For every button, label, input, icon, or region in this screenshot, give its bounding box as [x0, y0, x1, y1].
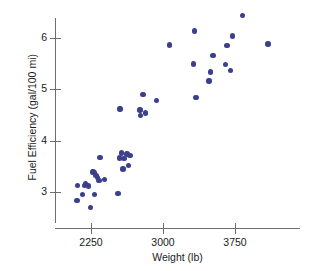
x-axis-tick-label: 2250 — [69, 237, 113, 248]
scatter-plot-figure: 3456225030003750 Weight (lb) Fuel Effici… — [0, 0, 315, 271]
data-point — [193, 95, 198, 100]
data-point — [75, 183, 80, 188]
data-point — [224, 43, 229, 48]
data-point — [191, 61, 196, 66]
data-point — [88, 205, 93, 210]
data-point — [115, 191, 120, 196]
data-point — [117, 106, 122, 111]
x-axis-tick — [235, 223, 236, 234]
data-point — [97, 155, 102, 160]
data-point — [240, 13, 245, 18]
data-point — [127, 153, 132, 158]
data-point — [120, 166, 125, 171]
plot-area: 3456225030003750 Weight (lb) Fuel Effici… — [0, 0, 315, 271]
data-point — [140, 92, 145, 97]
data-point — [126, 163, 131, 168]
data-point — [119, 150, 124, 155]
y-axis-tick — [50, 141, 61, 142]
x-axis-tick — [163, 223, 164, 234]
data-point — [92, 192, 97, 197]
data-point — [223, 62, 228, 67]
data-point — [167, 42, 172, 47]
data-point — [74, 198, 79, 203]
data-point — [143, 110, 148, 115]
data-point — [208, 69, 213, 74]
data-point — [210, 53, 215, 58]
x-axis-tick — [91, 223, 92, 234]
data-point — [80, 192, 85, 197]
data-point — [192, 28, 197, 33]
data-point — [137, 107, 142, 112]
data-point — [121, 156, 126, 161]
data-point — [86, 183, 91, 188]
y-axis-tick — [50, 38, 61, 39]
x-axis-tick-label: 3750 — [213, 237, 257, 248]
data-point — [230, 33, 235, 38]
x-axis-tick-label: 3000 — [141, 237, 185, 248]
data-point — [102, 177, 107, 182]
x-axis-title: Weight (lb) — [55, 252, 300, 263]
data-point — [228, 68, 233, 73]
data-point — [206, 78, 211, 83]
y-axis-tick — [50, 89, 61, 90]
data-point — [265, 41, 270, 46]
data-point — [154, 98, 159, 103]
y-axis-tick — [50, 192, 61, 193]
y-axis-title: Fuel Efficiency (gal/100 mi) — [27, 37, 38, 197]
